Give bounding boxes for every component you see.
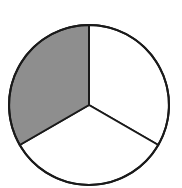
pie-slices [9, 25, 169, 185]
fraction-pie-diagram [0, 0, 182, 188]
